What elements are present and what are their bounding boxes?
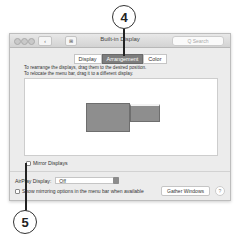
- tab-color[interactable]: Color: [143, 54, 166, 64]
- secondary-display-with-menubar[interactable]: [130, 104, 160, 122]
- callout-5-line: [25, 163, 27, 213]
- callout-4: 4: [112, 5, 136, 29]
- show-mirroring-checkbox[interactable]: [15, 189, 20, 194]
- help-button[interactable]: ?: [215, 186, 225, 196]
- airplay-select-value: Off: [59, 178, 66, 184]
- mirror-displays-label: Mirror Displays: [33, 160, 68, 166]
- airplay-label: AirPlay Display:: [15, 178, 51, 184]
- gather-windows-button[interactable]: Gather Windows: [161, 186, 210, 196]
- chevron-updown-icon: [113, 177, 119, 184]
- search-input[interactable]: Q Search: [172, 36, 224, 46]
- divider: [10, 171, 230, 172]
- airplay-select[interactable]: Off: [55, 177, 119, 184]
- main-display[interactable]: [86, 103, 130, 132]
- mirror-displays-option[interactable]: Mirror Displays: [26, 160, 68, 166]
- display-arrangement-area: [24, 78, 218, 156]
- tab-display[interactable]: Display: [74, 54, 102, 64]
- callout-5: 5: [13, 210, 37, 234]
- callout-4-line: [123, 29, 125, 56]
- show-mirroring-option[interactable]: Show mirroring options in the menu bar w…: [15, 188, 144, 194]
- instruction-line-2: To relocate the menu bar, drag it to a d…: [24, 71, 146, 77]
- instructions-text: To rearrange the displays, drag them to …: [24, 65, 146, 77]
- mirror-displays-checkbox[interactable]: [26, 161, 31, 166]
- titlebar: ‹ ⊞ Built-in Display Q Search: [10, 34, 230, 48]
- display-preferences-window: ‹ ⊞ Built-in Display Q Search Display Ar…: [9, 33, 231, 201]
- tab-bar: Display Arrangement Color: [10, 54, 230, 64]
- show-mirroring-label: Show mirroring options in the menu bar w…: [22, 188, 144, 194]
- airplay-display-row: AirPlay Display: Off: [15, 177, 119, 184]
